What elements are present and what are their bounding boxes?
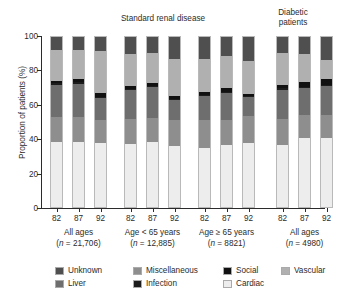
stacked-bar[interactable] xyxy=(94,36,107,208)
bar-segment-unknown xyxy=(243,37,254,61)
plot-area xyxy=(42,36,324,208)
group-label: All ages(n = 4980) xyxy=(260,228,337,249)
bar-group xyxy=(50,36,107,208)
bar-segment-vascular xyxy=(321,60,332,80)
bar-segment-cardiac xyxy=(125,144,136,207)
legend-item-liver[interactable]: Liver xyxy=(55,279,86,288)
legend-swatch-cardiac xyxy=(223,280,232,288)
bar-segment-miscellaneous xyxy=(95,120,106,143)
legend-label-unknown: Unknown xyxy=(68,266,102,275)
bar-segment-miscellaneous xyxy=(321,115,332,138)
stacked-bar[interactable] xyxy=(198,36,211,208)
bar-segment-liver xyxy=(73,84,84,117)
stacked-bar[interactable] xyxy=(146,36,159,208)
bar-segment-cardiac xyxy=(243,143,254,207)
legend-row-1: UnknownMiscellaneousSocialVascular xyxy=(55,264,317,277)
bar-segment-cardiac xyxy=(321,138,332,207)
bar-segment-liver xyxy=(169,100,180,120)
bar-segment-liver xyxy=(147,87,158,118)
bar-segment-unknown xyxy=(147,37,158,53)
legend-item-miscellaneous[interactable]: Miscellaneous xyxy=(133,266,198,275)
bar-segment-vascular xyxy=(299,54,310,82)
bar-segment-unknown xyxy=(277,37,288,53)
legend-swatch-miscellaneous xyxy=(133,267,142,275)
stacked-bar[interactable] xyxy=(276,36,289,208)
x-tick-label-92: 92 xyxy=(239,214,259,223)
bar-segment-liver xyxy=(243,97,254,116)
legend-item-infection[interactable]: Infection xyxy=(133,279,177,288)
legend-swatch-infection xyxy=(133,280,142,288)
bar-segment-liver xyxy=(321,86,332,115)
x-tick-label-92: 92 xyxy=(91,214,111,223)
bar-segment-vascular xyxy=(147,53,158,83)
x-tick-label-82: 82 xyxy=(273,214,293,223)
bar-segment-unknown xyxy=(95,37,106,51)
bar-segment-vascular xyxy=(277,53,288,84)
y-tick-mark-0 xyxy=(37,208,41,209)
bar-segment-miscellaneous xyxy=(51,117,62,143)
stacked-bar[interactable] xyxy=(124,36,137,208)
legend-item-vascular[interactable]: Vascular xyxy=(281,266,325,275)
bar-segment-unknown xyxy=(199,37,210,59)
stacked-bar[interactable] xyxy=(72,36,85,208)
group-label-name: Age ≥ 65 years xyxy=(182,228,272,239)
legend-swatch-social xyxy=(223,267,232,275)
bar-segment-unknown xyxy=(221,37,232,56)
y-tick-mark-40 xyxy=(37,139,41,140)
stacked-bar[interactable] xyxy=(220,36,233,208)
x-tick-label-87: 87 xyxy=(143,214,163,223)
bar-segment-vascular xyxy=(243,61,254,94)
bar-segment-unknown xyxy=(321,37,332,60)
x-tick-mark xyxy=(327,208,328,212)
stacked-bar[interactable] xyxy=(242,36,255,208)
stacked-bar[interactable] xyxy=(320,36,333,208)
y-tick-label-40: 40 xyxy=(16,135,38,144)
y-tick-mark-20 xyxy=(37,174,41,175)
legend-label-vascular: Vascular xyxy=(294,266,325,275)
bar-segment-unknown xyxy=(169,37,180,59)
bar-group xyxy=(198,36,255,208)
y-tick-mark-60 xyxy=(37,105,41,106)
x-tick-mark xyxy=(227,208,228,212)
bar-segment-miscellaneous xyxy=(299,115,310,138)
x-tick-label-92: 92 xyxy=(165,214,185,223)
x-tick-label-82: 82 xyxy=(195,214,215,223)
bar-segment-cardiac xyxy=(277,145,288,207)
legend-label-cardiac: Cardiac xyxy=(236,279,264,288)
bar-segment-vascular xyxy=(199,59,210,92)
legend-item-cardiac[interactable]: Cardiac xyxy=(223,279,264,288)
stacked-bar[interactable] xyxy=(50,36,63,208)
bar-segment-liver xyxy=(199,96,210,121)
legend-row-2: LiverInfectionCardiac xyxy=(55,277,317,290)
stacked-bar[interactable] xyxy=(168,36,181,208)
bar-segment-unknown xyxy=(51,37,62,50)
x-tick-mark xyxy=(175,208,176,212)
stacked-bar[interactable] xyxy=(298,36,311,208)
bar-segment-liver xyxy=(95,98,106,120)
x-tick-label-82: 82 xyxy=(47,214,67,223)
bar-segment-liver xyxy=(125,90,136,119)
bar-segment-vascular xyxy=(221,56,232,88)
group-label-count: (n = 8821) xyxy=(182,239,272,250)
bar-segment-vascular xyxy=(125,54,136,86)
group-label-count: (n = 4980) xyxy=(260,239,337,250)
bar-segment-unknown xyxy=(73,37,84,50)
bar-segment-vascular xyxy=(95,51,106,93)
bar-segment-miscellaneous xyxy=(221,120,232,145)
bar-segment-unknown xyxy=(125,37,136,54)
bar-segment-miscellaneous xyxy=(243,116,254,143)
y-tick-label-0: 0 xyxy=(16,204,38,213)
x-tick-mark xyxy=(205,208,206,212)
bar-segment-miscellaneous xyxy=(169,120,180,146)
x-tick-label-87: 87 xyxy=(69,214,89,223)
x-tick-mark xyxy=(101,208,102,212)
legend-label-liver: Liver xyxy=(68,279,86,288)
bar-segment-cardiac xyxy=(51,142,62,207)
legend-item-unknown[interactable]: Unknown xyxy=(55,266,102,275)
bar-segment-miscellaneous xyxy=(125,119,136,145)
x-tick-mark xyxy=(131,208,132,212)
bar-segment-miscellaneous xyxy=(73,117,84,142)
legend-item-social[interactable]: Social xyxy=(223,266,258,275)
x-tick-label-92: 92 xyxy=(317,214,337,223)
bar-segment-liver xyxy=(221,93,232,120)
